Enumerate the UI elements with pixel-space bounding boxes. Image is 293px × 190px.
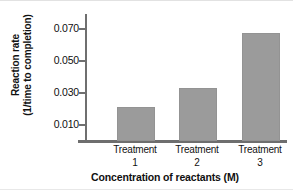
category-label-number: 2 [164, 157, 230, 170]
y-tick-mark [79, 124, 86, 126]
y-tick-mark [79, 60, 86, 62]
y-tick-mark [79, 92, 86, 94]
x-axis-label: Concentration of reactants (M) [40, 171, 290, 183]
category-label-name: Treatment [175, 144, 218, 155]
category-label: Treatment3 [227, 144, 293, 169]
category-label-number: 1 [102, 157, 168, 170]
category-label-name: Treatment [113, 144, 156, 155]
x-axis-category-labels: Treatment1Treatment2Treatment3 [86, 144, 288, 174]
category-label-name: Treatment [238, 144, 281, 155]
y-axis-ticks: 0.0100.0300.0500.070 [26, 1, 79, 190]
category-label-number: 3 [227, 157, 293, 170]
y-axis-label-line1: Reaction rate [10, 34, 21, 96]
y-tick-label: 0.050 [33, 54, 79, 66]
y-tick-label: 0.030 [33, 86, 79, 98]
bar [242, 33, 280, 141]
bar [179, 88, 217, 141]
category-label: Treatment2 [164, 144, 230, 169]
y-tick-label: 0.070 [33, 22, 79, 34]
bar [117, 107, 155, 141]
bars-container [87, 15, 287, 141]
y-tick-label: 0.010 [33, 118, 79, 130]
bar-chart-figure: Reaction rate (1/time to completion) 0.0… [0, 0, 293, 190]
category-label: Treatment1 [102, 144, 168, 169]
y-tick-mark [79, 28, 86, 30]
